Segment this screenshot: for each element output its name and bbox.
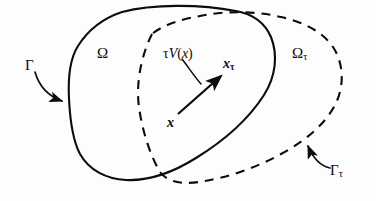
- label-tau-v-of-x: τV(x): [163, 47, 193, 61]
- figure-container: Ω Γ Ωτ Γτ τV(x) xτ x: [0, 0, 376, 201]
- gamma-tau-leader-arrow: [308, 146, 330, 168]
- label-gamma: Γ: [25, 58, 34, 73]
- label-omega-tau-subscript: τ: [303, 51, 307, 62]
- solid-boundary-curve: [69, 6, 275, 180]
- label-gamma-tau: Γτ: [330, 163, 343, 179]
- domain-perturbation-diagram: [0, 0, 376, 201]
- dashed-boundary-curve: [138, 12, 342, 183]
- label-v-symbol: V: [169, 46, 178, 61]
- label-gamma-tau-base: Γ: [330, 162, 339, 178]
- label-omega-tau-base: Ω: [292, 45, 303, 61]
- label-omega: Ω: [97, 46, 108, 61]
- label-x-tau: xτ: [223, 57, 234, 73]
- label-x-tau-subscript: τ: [230, 62, 234, 72]
- gamma-leader-arrow: [35, 72, 62, 101]
- label-close-paren: ): [188, 46, 193, 61]
- label-gamma-tau-subscript: τ: [339, 168, 343, 179]
- tv-leader-line: [182, 59, 201, 84]
- label-x: x: [167, 116, 174, 130]
- label-x-tau-base: x: [223, 56, 230, 71]
- label-omega-tau: Ωτ: [292, 46, 307, 62]
